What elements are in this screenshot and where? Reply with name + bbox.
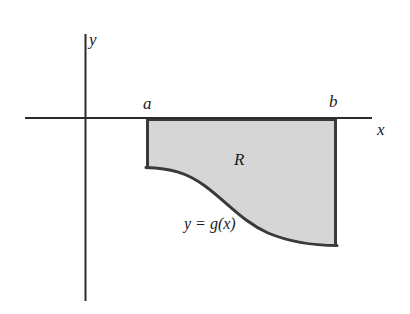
region-label-r: R [234, 151, 244, 168]
x-axis-label: x [377, 121, 385, 138]
upper-bound-label-b: b [329, 93, 338, 110]
curve-equation-label: y = g(x) [184, 216, 236, 232]
lower-bound-label-a: a [143, 95, 152, 112]
shaded-region-r [146, 118, 337, 245]
coordinate-plane-figure [0, 0, 410, 314]
figure-container: y x a b R y = g(x) [0, 0, 410, 314]
y-axis-label: y [89, 31, 97, 48]
